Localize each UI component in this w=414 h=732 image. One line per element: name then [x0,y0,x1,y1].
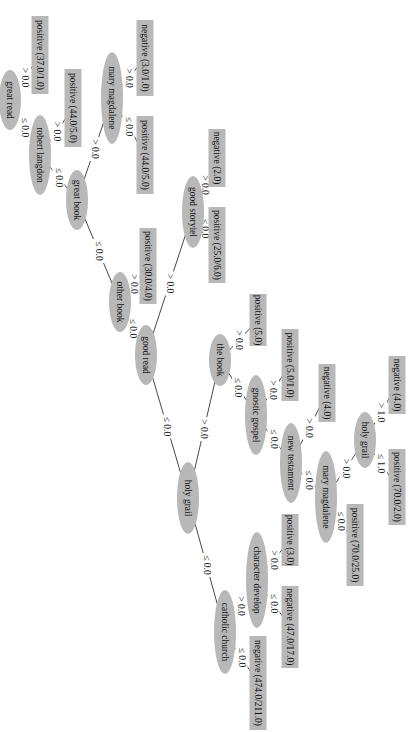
edge-condition-label: ≤ 0.0 [237,648,247,668]
leaf-label: negative (3.0/1.0) [139,24,150,91]
split-node: good read [135,325,157,385]
split-label: great read [5,81,15,119]
split-label: gnostic gospel [251,388,261,443]
edge-condition-label: > 0.0 [124,68,134,88]
leaf-node: positive (44.0/5.0) [65,69,82,147]
leaf-node: positive (70.0/25.0) [347,504,364,586]
leaf-node: positive (37.0/1.0) [32,16,49,94]
split-label: robert langdon [35,127,45,183]
edge-condition-label: > 0.0 [52,122,62,142]
split-label: mary magdalene [107,66,117,129]
split-node: holy grail [177,462,199,534]
edge-condition-label: > 0.0 [20,68,30,88]
edge-condition-label: ≤ 0.0 [54,168,64,188]
split-node: other book [109,272,131,332]
edge-condition-label: > 0.0 [129,274,139,294]
leaf-node: negative (4.0) [389,356,406,414]
edge-condition-label: ≤ 0.0 [20,118,30,138]
edge-condition-label: ≤ 1.0 [376,454,386,474]
leaf-node: negative (474.0/211.0) [250,636,267,730]
edge-condition-label: ≤ 0.0 [94,241,104,261]
edge-condition-label: ≤ 0.0 [233,378,243,398]
split-node: great read [0,70,21,130]
edge-condition-label: ≤ 0.0 [202,555,212,575]
split-node: mary magdalene [101,52,123,144]
leaf-label: negative (47.0/17.0) [284,589,295,666]
split-label: holy grail [183,480,193,517]
split-label: new testament [286,436,296,491]
edge-condition-label: > 0.0 [268,380,278,400]
decision-tree-diagram: ≤ 0.0> 0.0≤ 0.0≤ 0.0> 0.0≤ 0.0> 0.0≤ 0.0… [0,0,414,732]
leaf-node: positive (5.0) [250,294,267,346]
leaf-node: positive (3.0) [282,514,299,566]
edge-condition-label: > 0.0 [165,274,175,294]
split-label: good read [141,336,151,374]
split-node: holy grail [354,412,376,468]
leaf-label: positive (5.0) [252,295,263,346]
leaf-node: positive (44.0/5.0) [137,116,154,194]
edge-condition-label: > 0.0 [90,139,100,159]
split-label: catholic church [220,603,230,662]
leaf-label: negative (4.0) [391,359,402,412]
edge-condition-label: ≤ 0.0 [128,319,138,339]
leaf-node: negative (2.0) [209,129,226,187]
leaf-label: positive (70.0/2.0) [391,452,402,522]
edge-condition-label: ≤ 0.0 [124,117,134,137]
split-node: the book [209,334,231,386]
leaf-label: positive (44.0/5.0) [139,120,150,190]
leaf-label: negative (4.0) [321,367,332,420]
split-label: the book [215,344,225,377]
leaf-label: positive (70.0/25.0) [349,508,360,583]
split-node: gnostic gospel [245,375,267,455]
leaf-node: positive (30.0/4.0) [140,228,157,304]
leaf-node: negative (4.0) [319,364,336,422]
edge-condition-label: ≤ 0.0 [269,429,279,449]
leaf-node: positive (5.0/1.0) [282,329,299,401]
split-label: character develop [252,546,262,613]
leaf-label: positive (25.0/6.0) [211,210,222,280]
leaf-label: negative (474.0/211.0) [252,640,263,726]
edge-condition-label: > 0.0 [269,550,279,570]
split-label: mary magdalene [321,465,331,528]
leaf-label: positive (30.0/4.0) [142,231,153,301]
leaf-label: positive (3.0) [284,515,295,566]
split-node: new testament [280,423,302,503]
leaf-label: positive (5.0/1.0) [284,332,295,397]
leaf-node: negative (47.0/17.0) [282,586,299,668]
edge-condition-label: > 1.0 [376,403,386,423]
edge-condition-label: > 0.0 [341,459,351,479]
split-node: good storyiel [182,176,204,248]
split-label: great book [72,180,82,221]
split-label: other book [115,282,125,323]
leaf-label: negative (2.0) [211,132,222,185]
edge-condition-label: > 0.0 [234,330,244,350]
edge-condition-label: ≤ 0.0 [304,470,314,490]
leaf-label: positive (37.0/1.0) [34,20,45,90]
split-node: robert langdon [29,115,51,195]
split-label: holy grail [360,422,370,459]
edge-condition-label: > 0.0 [199,419,209,439]
leaf-label: positive (44.0/5.0) [67,73,78,143]
split-node: catholic church [214,590,236,674]
edge-condition-label: ≤ 0.0 [162,417,172,437]
edge-condition-label: > 0.0 [236,596,246,616]
edge-condition-label: ≤ 0.0 [269,594,279,614]
edge-condition-label: ≤ 0.0 [336,511,346,531]
split-node: mary magdalene [315,451,337,543]
edge-condition-label: > 0.0 [304,418,314,438]
leaf-node: negative (3.0/1.0) [137,20,154,96]
split-node: great book [66,170,88,230]
leaf-node: positive (70.0/2.0) [389,449,406,525]
split-label: good storyiel [188,187,198,237]
leaf-node: positive (25.0/6.0) [209,207,226,283]
edges-layer [10,55,397,683]
split-node: character develop [246,532,268,628]
